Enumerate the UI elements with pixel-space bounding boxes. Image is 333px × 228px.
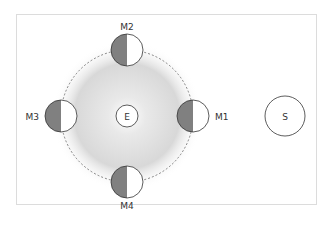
moon-shadow-half (45, 100, 61, 132)
moon-label: M3 (26, 112, 40, 122)
moon-m2: M2 (111, 22, 143, 66)
earth-label: E (124, 112, 130, 122)
moon-m1: M1 (177, 100, 229, 132)
moon-m3: M3 (26, 100, 78, 132)
moon-m4: M4 (111, 166, 143, 211)
sun: S (265, 96, 305, 136)
moon-label: M1 (215, 112, 229, 122)
moon-label: M4 (120, 201, 134, 211)
moon-phase-diagram: E S M1M2M3M4 (0, 0, 333, 228)
sun-label: S (282, 112, 288, 122)
earth: E (116, 105, 138, 127)
moon-label: M2 (120, 22, 134, 32)
